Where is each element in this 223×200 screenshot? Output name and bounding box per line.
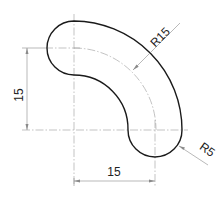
arrow-icon [26, 48, 29, 54]
arrow-icon [74, 180, 80, 183]
technical-drawing: 15 15 R15 R5 [0, 0, 223, 200]
vertical-dim-label: 15 [12, 88, 26, 102]
r5-label: R5 [197, 140, 218, 160]
horizontal-dim-label: 15 [107, 165, 121, 179]
r15-label: R15 [147, 24, 173, 50]
arrow-icon [26, 124, 29, 130]
arrow-icon [149, 180, 155, 183]
centerline-arc [74, 48, 156, 130]
